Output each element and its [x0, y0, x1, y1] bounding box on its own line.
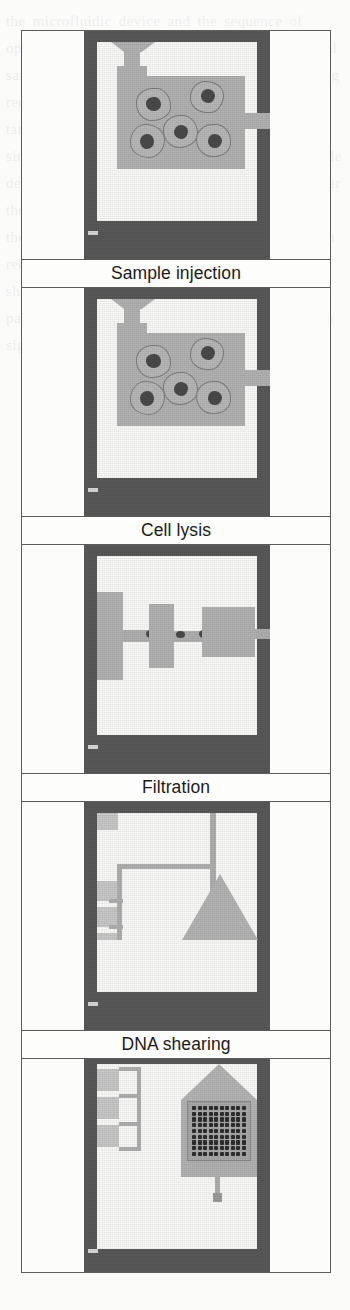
panel-stage-hybridization [22, 1059, 330, 1273]
microarray-spot [225, 1106, 229, 1110]
microarray-spot [220, 1146, 224, 1150]
alignment-notch [88, 1249, 98, 1253]
alignment-notch [88, 488, 98, 492]
microarray-spot [231, 1146, 235, 1150]
microarray-spot [198, 1123, 202, 1127]
microarray-spot [236, 1135, 240, 1139]
microarray-spot [220, 1117, 224, 1121]
panel-cell-lysis: Cell lysis [22, 287, 330, 544]
reservoir-2 [97, 1097, 119, 1119]
microarray-spot [214, 1135, 218, 1139]
cell-nucleus [140, 134, 154, 149]
caption-text: Sample injection [111, 263, 241, 284]
microarray-spot [236, 1117, 240, 1121]
panel-sample-injection: Sample injection [22, 31, 330, 287]
panel-caption-dna-shearing: DNA shearing [22, 1030, 330, 1058]
cell-nucleus [146, 97, 161, 111]
microarray-spot [236, 1152, 240, 1156]
microarray-spot [225, 1129, 229, 1133]
reservoir-2 [97, 907, 117, 927]
microarray-spot [209, 1140, 213, 1144]
panel-dna-shearing: DNA shearing [22, 801, 330, 1058]
cell-nucleus [201, 89, 215, 103]
cell-nucleus [146, 354, 161, 368]
routing-channel-horizontal [117, 864, 213, 869]
microarray-spot [242, 1112, 246, 1116]
cell [163, 372, 198, 405]
microarray-spot [203, 1135, 207, 1139]
microarray-spot [192, 1146, 196, 1150]
microarray-spot [236, 1129, 240, 1133]
microarray-spot [192, 1123, 196, 1127]
alignment-notch [88, 231, 98, 235]
microarray-spot [242, 1152, 246, 1156]
cell-nucleus [208, 391, 222, 405]
panel-caption-cell-lysis: Cell lysis [22, 516, 330, 544]
microarray-spot [203, 1152, 207, 1156]
microarray-spot [220, 1112, 224, 1116]
microarray-spot [203, 1129, 207, 1133]
microarray-spot [209, 1106, 213, 1110]
cell [130, 124, 165, 158]
microarray-spot [242, 1129, 246, 1133]
panel-caption-sample-injection: Sample injection [22, 259, 330, 287]
panel-stage-dna-shearing [22, 802, 330, 1030]
microarray-spot [220, 1129, 224, 1133]
microarray-spot [198, 1140, 202, 1144]
microarray-spot [203, 1112, 207, 1116]
microarray-spot [242, 1106, 246, 1110]
microarray-spot [242, 1146, 246, 1150]
microarray-spot [203, 1123, 207, 1127]
filtration-outlet [255, 629, 270, 639]
microarray-spot [242, 1135, 246, 1139]
microarray-spot [198, 1112, 202, 1116]
microarray-spot [214, 1106, 218, 1110]
microarray-spot [203, 1106, 207, 1110]
microarray-spot [220, 1106, 224, 1110]
microarray-spot [209, 1129, 213, 1133]
microarray-spot [192, 1112, 196, 1116]
reservoir-3 [97, 933, 117, 940]
microarray-spot [203, 1146, 207, 1150]
cell-nucleus [201, 346, 215, 360]
microarray-spot [198, 1117, 202, 1121]
microarray-spot [242, 1117, 246, 1121]
microarray-spot [220, 1140, 224, 1144]
microarray-spot [214, 1112, 218, 1116]
microarray-spot [192, 1140, 196, 1144]
microarray-spot [236, 1112, 240, 1116]
filtration-chamber-3 [202, 607, 255, 657]
filtration-channel-1 [123, 630, 149, 642]
microarray-spot [192, 1135, 196, 1139]
reservoir-top [97, 813, 118, 830]
microarray-spot [209, 1112, 213, 1116]
panel-hybridization-and-detection: Hybridization and detection [22, 1058, 330, 1273]
microarray-spot [231, 1112, 235, 1116]
chip-substrate-dna-shearing [84, 802, 270, 1030]
microarray-spot [225, 1146, 229, 1150]
outlet-port [241, 370, 270, 386]
reservoir-1 [97, 881, 117, 901]
chip-substrate-sample-injection [84, 31, 270, 259]
cell-nucleus [140, 391, 154, 406]
cell [136, 88, 171, 121]
cell-nucleus [174, 382, 188, 396]
microarray-spot [225, 1140, 229, 1144]
microarray-spot [231, 1140, 235, 1144]
microarray-spot [236, 1140, 240, 1144]
chip-substrate-cell-lysis [84, 288, 270, 516]
microarray-spot [231, 1123, 235, 1127]
reservoir-1-channel [109, 899, 123, 903]
microarray-spot [220, 1123, 224, 1127]
microarray-spot [236, 1146, 240, 1150]
figure-container: Sample injection [21, 30, 331, 1273]
caption-text: DNA shearing [121, 1034, 230, 1055]
microarray-spot [198, 1129, 202, 1133]
cell [163, 115, 198, 148]
panel-stage-filtration [22, 545, 330, 773]
microarray-spot [214, 1129, 218, 1133]
microarray-spot [225, 1152, 229, 1156]
microarray-spot [225, 1135, 229, 1139]
chip-substrate-hybridization [84, 1059, 270, 1273]
microarray-spot [198, 1146, 202, 1150]
